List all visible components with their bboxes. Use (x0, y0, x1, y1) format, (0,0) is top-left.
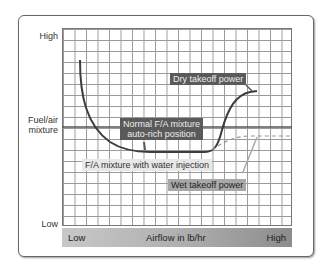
callout-dry-takeoff: Dry takeoff power (170, 73, 246, 85)
callout-wet-takeoff: Wet takeoff power (168, 179, 246, 191)
callout-water-injection: F/A mixture with water injection (82, 159, 212, 171)
wet-takeoff-pointer (243, 137, 257, 172)
dry-takeoff-pointer (246, 85, 252, 91)
callout-normal-mixture: Normal F/A mixture auto-rich position (120, 118, 203, 140)
callout-normal-line1: Normal F/A mixture (123, 119, 200, 129)
callout-normal-line2: auto-rich position (123, 129, 200, 139)
normal-pointer (144, 142, 145, 150)
